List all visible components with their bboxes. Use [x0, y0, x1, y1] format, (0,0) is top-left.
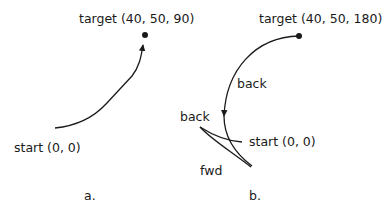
back-short-path [200, 127, 242, 142]
start-label-a: start (0, 0) [14, 142, 81, 155]
back-label-upper: back [237, 78, 267, 91]
fwd-path [200, 127, 251, 167]
target-label-b: target (40, 50, 180) [259, 13, 382, 26]
target-point-a [142, 32, 148, 38]
target-label-a: target (40, 50, 90) [79, 13, 194, 26]
fwd-label: fwd [200, 165, 222, 178]
target-point-b [296, 33, 302, 39]
start-label-b: start (0, 0) [249, 136, 316, 149]
caption-a: a. [84, 190, 96, 203]
back-label-lower: back [180, 111, 210, 124]
path-a [55, 45, 143, 128]
diagram-a [55, 32, 148, 128]
caption-b: b. [249, 190, 261, 203]
